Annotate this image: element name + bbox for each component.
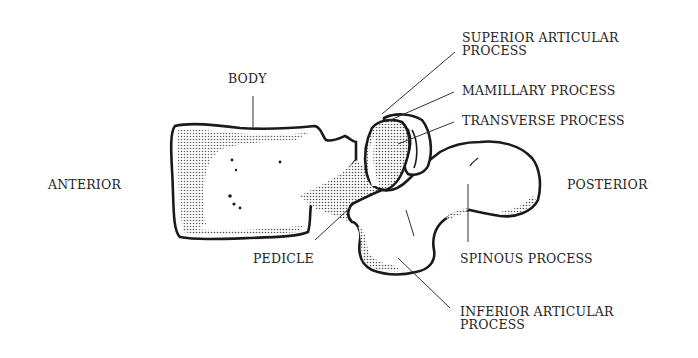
label-mamillary-process: MAMILLARY PROCESS <box>462 84 616 97</box>
label-superior-articular-line2: PROCESS <box>462 44 527 57</box>
label-spinous-process: SPINOUS PROCESS <box>460 252 593 265</box>
vertebra-diagram: SUPERIOR ARTICULAR PROCESS MAMILLARY PRO… <box>0 0 698 358</box>
label-inferior-articular-line2: PROCESS <box>460 318 525 331</box>
label-anterior: ANTERIOR <box>48 178 121 191</box>
leader-superior-articular <box>382 52 455 114</box>
label-pedicle: PEDICLE <box>253 252 314 265</box>
label-posterior: POSTERIOR <box>567 178 648 191</box>
label-transverse-process: TRANSVERSE PROCESS <box>462 114 625 127</box>
label-body: BODY <box>228 72 267 85</box>
